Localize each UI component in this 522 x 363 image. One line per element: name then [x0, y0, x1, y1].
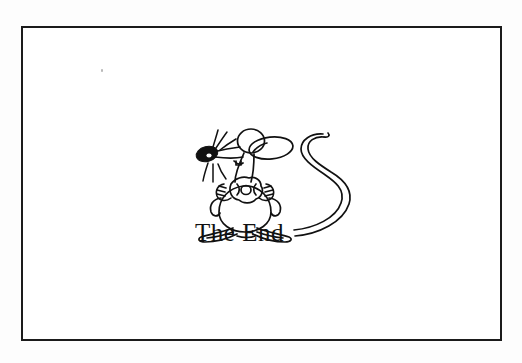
held-object-crease-2	[254, 184, 256, 195]
head	[238, 129, 265, 153]
hand-left-finger-1	[219, 186, 226, 188]
hand-right-finger-3	[265, 194, 273, 196]
snout-lower-line	[215, 157, 243, 158]
tail-inner-line	[294, 134, 342, 230]
held-object-crease-1	[237, 184, 239, 195]
whisker-down-1	[203, 163, 208, 181]
hand-right-finger-2	[265, 190, 273, 192]
hand-left-finger-3	[217, 194, 225, 196]
hand-right-finger-1	[264, 186, 271, 188]
held-object	[230, 177, 262, 203]
page-canvas: The End	[0, 0, 522, 363]
held-object-hole	[241, 186, 251, 195]
whisker-up-1	[213, 130, 218, 147]
tail-tip-cap	[324, 133, 329, 137]
eye	[206, 154, 211, 158]
hand-left-finger-2	[217, 190, 225, 192]
ear	[248, 135, 294, 161]
whisker-down-3	[218, 164, 226, 179]
card-frame	[21, 26, 502, 341]
scan-speck-artifact	[101, 69, 103, 72]
caption-the-end: The End	[21, 219, 502, 247]
